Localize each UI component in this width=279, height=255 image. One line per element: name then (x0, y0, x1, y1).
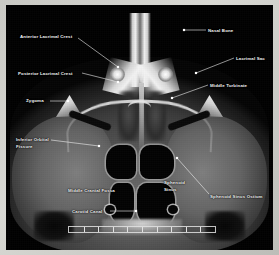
label-middle-turbinate: Middle Turbinate (210, 83, 247, 90)
scale-bar-tick (142, 227, 143, 232)
label-line: Sinus (164, 187, 185, 194)
label-line: Posterior Lacrimal Crest (18, 71, 73, 78)
scale-bar-tick (171, 227, 172, 232)
label-sphenoid-sinus: SphenoidSinus (164, 180, 185, 193)
label-line: Inferior Orbital (16, 137, 49, 144)
label-posterior-lacrimal-crest: Posterior Lacrimal Crest (18, 71, 73, 78)
label-lacrimal-sac: Lacrimal Sac (236, 56, 265, 63)
label-line: Sphenoid Sinus Ostium (210, 194, 263, 201)
scale-bar (68, 226, 216, 233)
label-line: Middle Cranial Fossa (68, 188, 115, 195)
label-line: Carotid Canal (72, 209, 103, 216)
right-lacrimal-fossa (158, 67, 173, 82)
label-line: Sphenoid (164, 180, 185, 187)
label-line: Fissure (16, 144, 49, 151)
label-line: Zygoma (26, 98, 44, 105)
label-inferior-orbital-fissure: Inferior OrbitalFissure (16, 137, 49, 150)
scale-bar-tick (127, 227, 128, 232)
scale-bar-tick (98, 227, 99, 232)
label-line: Middle Turbinate (210, 83, 247, 90)
left-carotid-canal-structure (105, 205, 115, 214)
sphenoid-air-cell (106, 145, 136, 179)
sphenoid-air-cell (140, 145, 174, 179)
label-line: Lacrimal Sac (236, 56, 265, 63)
scale-bar-tick (186, 227, 187, 232)
label-middle-cranial-fossa: Middle Cranial Fossa (68, 188, 115, 195)
label-zygoma: Zygoma (26, 98, 44, 105)
scale-bar-tick (200, 227, 201, 232)
marker-nasal-bone (183, 29, 185, 31)
scale-bar-tick (84, 227, 85, 232)
scale-bar-tick (157, 227, 158, 232)
scale-bar-tick (113, 227, 114, 232)
right-carotid-canal-structure (168, 205, 178, 214)
label-anterior-lacrimal-crest: Anterior Lacrimal Crest (20, 34, 72, 41)
label-nasal-bone: Nasal Bone (208, 28, 233, 35)
ct-scan-image: Anterior Lacrimal CrestPosterior Lacrima… (6, 5, 273, 250)
label-line: Anterior Lacrimal Crest (20, 34, 72, 41)
left-lacrimal-fossa (110, 67, 125, 82)
label-line: Nasal Bone (208, 28, 233, 35)
image-frame: Anterior Lacrimal CrestPosterior Lacrima… (0, 0, 279, 255)
label-sphenoid-sinus-ostium: Sphenoid Sinus Ostium (210, 194, 263, 201)
label-carotid-canal: Carotid Canal (72, 209, 103, 216)
